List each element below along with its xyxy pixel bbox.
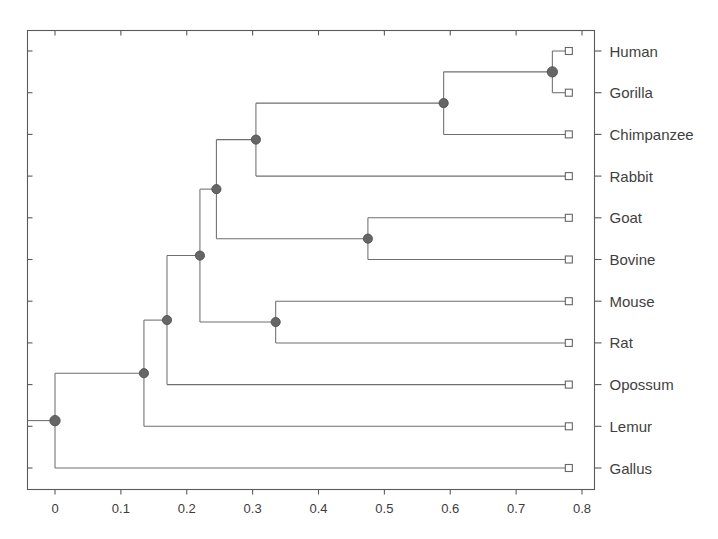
leaf-label-opossum: Opossum: [610, 376, 674, 393]
tree-leaf-labels: HumanGorillaChimpanzeeRabbitGoatBovineMo…: [610, 43, 694, 477]
internal-node-marker: [547, 67, 557, 77]
leaf-marker: [565, 381, 572, 388]
internal-node-marker: [139, 369, 148, 378]
x-axis-tick-label: 0.2: [178, 501, 196, 516]
leaf-label-rat: Rat: [610, 334, 634, 351]
internal-node-marker: [271, 317, 280, 326]
leaf-marker: [565, 423, 572, 430]
leaf-marker: [565, 89, 572, 96]
tree-branches: [28, 51, 569, 468]
leaf-marker: [565, 48, 572, 55]
internal-node-marker: [439, 99, 448, 108]
leaf-marker: [565, 465, 572, 472]
axis-tick-labels: 00.10.20.30.40.50.60.70.8: [51, 501, 591, 516]
internal-node-marker: [251, 135, 260, 144]
tree-leaf-markers: [565, 48, 572, 472]
leaf-label-goat: Goat: [610, 209, 643, 226]
leaf-marker: [565, 131, 572, 138]
phylogenetic-tree-plot: HumanGorillaChimpanzeeRabbitGoatBovineMo…: [0, 0, 718, 539]
leaf-label-rabbit: Rabbit: [610, 168, 654, 185]
x-axis-tick-label: 0: [51, 501, 58, 516]
x-axis-tick-label: 0.1: [112, 501, 130, 516]
leaf-marker: [565, 339, 572, 346]
axis-ticks: [55, 31, 582, 495]
leaf-label-gorilla: Gorilla: [610, 84, 654, 101]
leaf-label-gallus: Gallus: [610, 460, 653, 477]
x-axis-tick-label: 0.5: [375, 501, 393, 516]
leaf-marker: [565, 256, 572, 263]
internal-node-marker: [212, 185, 221, 194]
leaf-marker: [565, 298, 572, 305]
leaf-label-mouse: Mouse: [610, 293, 655, 310]
x-axis-tick-label: 0.7: [507, 501, 525, 516]
leaf-label-lemur: Lemur: [610, 418, 653, 435]
tree-internal-nodes: [50, 67, 558, 426]
figure-canvas: HumanGorillaChimpanzeeRabbitGoatBovineMo…: [0, 0, 718, 539]
x-axis-tick-label: 0.8: [573, 501, 591, 516]
leaf-label-human: Human: [610, 43, 658, 60]
x-axis-tick-label: 0.3: [244, 501, 262, 516]
leaf-label-chimpanzee: Chimpanzee: [610, 126, 694, 143]
leaf-label-bovine: Bovine: [610, 251, 656, 268]
internal-node-marker: [363, 234, 372, 243]
internal-node-marker: [195, 251, 204, 260]
internal-node-marker: [162, 315, 171, 324]
internal-node-marker: [50, 415, 60, 425]
x-axis-tick-label: 0.4: [309, 501, 327, 516]
leaf-marker: [565, 173, 572, 180]
x-axis-tick-label: 0.6: [441, 501, 459, 516]
leaf-marker: [565, 214, 572, 221]
